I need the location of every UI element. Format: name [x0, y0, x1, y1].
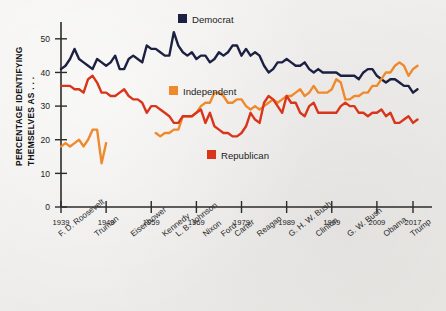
y-tick-label: 10 — [41, 169, 51, 179]
y-axis-title-line1: PERCENTAGE IDENTIFYING — [14, 46, 24, 166]
y-tick-label: 0 — [45, 202, 50, 212]
series-line-democrat — [61, 32, 418, 93]
series-line-republican — [61, 76, 418, 137]
legend-item-independent: Independent — [169, 86, 237, 97]
y-axis-title-line2: THEMSELVES AS . . . — [26, 77, 36, 166]
legend-label-democrat: Democrat — [192, 14, 234, 25]
data-series-group — [61, 32, 418, 163]
legend-label-independent: Independent — [183, 86, 237, 97]
y-tick-label: 30 — [41, 101, 51, 111]
y-tick-labels-group: 01020304050 — [41, 34, 51, 212]
line-chart: 01020304050 1939194919591969197919891999… — [0, 0, 446, 311]
legend-label-republican: Republican — [221, 150, 269, 161]
y-tick-label: 20 — [41, 135, 51, 145]
series-line-independent — [61, 130, 106, 164]
legend-item-republican: Republican — [207, 150, 269, 161]
legend-item-democrat: Democrat — [178, 14, 234, 25]
y-tick-label: 50 — [41, 34, 51, 44]
legend-swatch-democrat — [178, 14, 187, 23]
legend-swatch-republican — [207, 150, 216, 159]
y-tick-label: 40 — [41, 68, 51, 78]
axis-title-group: PERCENTAGE IDENTIFYING THEMSELVES AS . .… — [14, 46, 36, 166]
legend-swatch-independent — [169, 86, 178, 95]
chart-figure: 01020304050 1939194919591969197919891999… — [0, 0, 446, 311]
